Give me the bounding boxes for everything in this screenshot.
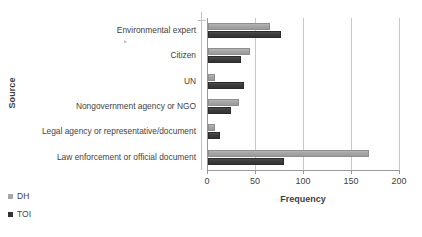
x-axis-tick-label: 100: [295, 176, 310, 186]
category-label: Environmental expert: [0, 18, 202, 43]
x-axis-tick-labels: 050100150200: [207, 176, 399, 190]
bar-toi[interactable]: [208, 158, 284, 165]
bar-dh[interactable]: [208, 48, 250, 55]
bar-toi[interactable]: [208, 82, 244, 89]
bar-dh[interactable]: [208, 99, 239, 106]
x-axis-tick-label: 0: [204, 176, 209, 186]
bar-dh[interactable]: [208, 74, 215, 81]
dh-swatch-icon: [8, 194, 13, 199]
x-axis-tick: [255, 170, 256, 174]
legend-item-toi[interactable]: TOI: [8, 209, 31, 219]
x-axis-tick: [351, 170, 352, 174]
bar-group: [208, 119, 399, 144]
bar-group: [208, 18, 399, 43]
bar-group: [208, 43, 399, 68]
bar-toi[interactable]: [208, 107, 231, 114]
bar-toi[interactable]: [208, 132, 220, 139]
bar-dh[interactable]: [208, 124, 215, 131]
category-label: Citizen: [0, 43, 202, 68]
bar-group-container: [208, 18, 399, 170]
bar-toi[interactable]: [208, 31, 281, 38]
toi-swatch-icon: [8, 212, 13, 217]
legend: DH TOI: [8, 191, 31, 219]
plot-frame-edge: [201, 12, 202, 170]
x-axis-tick: [303, 170, 304, 174]
legend-label: TOI: [17, 209, 31, 219]
bar-chart: Source Environmental expert Citizen UN N…: [0, 0, 422, 237]
bar-toi[interactable]: [208, 56, 241, 63]
category-label: Legal agency or representative/document: [0, 119, 202, 144]
bar-dh[interactable]: [208, 150, 369, 157]
legend-label: DH: [17, 191, 29, 201]
x-axis-tick-label: 150: [343, 176, 358, 186]
x-axis-tick: [399, 170, 400, 174]
category-label-column: Environmental expert Citizen UN Nongover…: [0, 18, 202, 170]
category-label: Law enforcement or official document: [0, 145, 202, 170]
bar-group: [208, 69, 399, 94]
legend-item-dh[interactable]: DH: [8, 191, 31, 201]
bar-dh[interactable]: [208, 23, 270, 30]
bar-group: [208, 94, 399, 119]
gridline: [399, 18, 400, 170]
bar-group: [208, 145, 399, 170]
category-label: UN: [0, 69, 202, 94]
x-axis-title: Frequency: [207, 194, 399, 204]
x-axis-tick-label: 50: [250, 176, 260, 186]
category-label: Nongovernment agency or NGO: [0, 94, 202, 119]
x-axis-tick-label: 200: [391, 176, 406, 186]
plot-area: [207, 18, 399, 170]
stray-artifact-mark: ь: [124, 38, 127, 44]
x-axis-tick: [207, 170, 208, 174]
